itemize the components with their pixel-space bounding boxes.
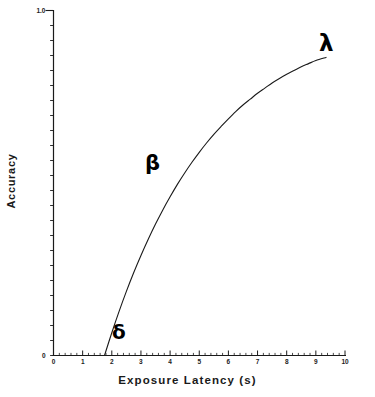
x-tick-label: 8 xyxy=(278,358,296,365)
x-tick-label: 9 xyxy=(307,358,325,365)
y-tick-label-bottom: 0 xyxy=(20,352,46,359)
annotation-delta: δ xyxy=(112,322,126,342)
x-tick-label: 1 xyxy=(74,358,92,365)
y-axis-title: Accuracy xyxy=(5,136,17,226)
plot-canvas xyxy=(0,0,375,397)
y-tick-label-top: 1.0 xyxy=(20,7,46,14)
x-tick-label: 7 xyxy=(249,358,267,365)
x-tick-label: 10 xyxy=(336,358,354,365)
annotation-lambda: λ xyxy=(319,32,334,55)
x-tick-label: 0 xyxy=(45,358,63,365)
x-tick-label: 3 xyxy=(132,358,150,365)
x-tick-label: 5 xyxy=(190,358,208,365)
annotation-beta: β xyxy=(145,153,160,174)
chart-figure: 1.0 0 012345678910 Accuracy Exposure Lat… xyxy=(0,0,375,397)
x-axis-title: Exposure Latency (s) xyxy=(0,374,375,386)
x-tick-label: 2 xyxy=(103,358,121,365)
x-tick-label: 4 xyxy=(161,358,179,365)
x-tick-label: 6 xyxy=(219,358,237,365)
